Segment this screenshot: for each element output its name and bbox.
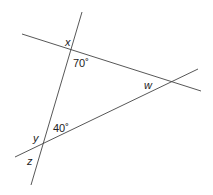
- label-z: z: [26, 155, 33, 167]
- lower-line: [15, 69, 198, 157]
- label-y: y: [32, 132, 40, 144]
- angle-70: 70˚: [73, 57, 89, 69]
- steep-line: [31, 12, 82, 185]
- angle-40: 40˚: [53, 122, 69, 134]
- upper-line: [22, 34, 201, 91]
- label-w: w: [144, 79, 153, 91]
- angle-diagram: x 70˚ w 40˚ y z: [0, 0, 213, 195]
- label-x: x: [64, 36, 71, 48]
